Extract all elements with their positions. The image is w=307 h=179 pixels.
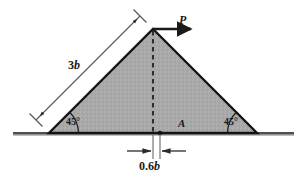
angle-left-label: 45°	[66, 117, 80, 127]
offset-dimension-label: 0.6b	[139, 160, 160, 172]
offset-dimension-unit: b	[154, 159, 160, 173]
point-a-label: A	[178, 118, 185, 129]
offset-dimension-value: 0.6	[139, 159, 154, 173]
figure-canvas	[0, 0, 307, 179]
statics-figure: P 3b 45° 45° A 0.6b	[0, 0, 307, 179]
angle-right-label: 45°	[224, 117, 238, 127]
force-p-label: P	[179, 14, 186, 26]
slope-dimension-label: 3b	[68, 59, 80, 71]
offset-dimension	[127, 134, 186, 159]
slope-dimension-unit: b	[74, 58, 80, 72]
